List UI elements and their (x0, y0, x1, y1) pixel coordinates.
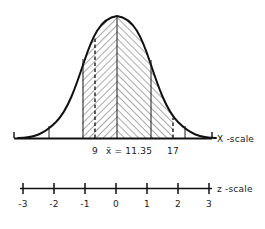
z-tick-label-minus1: -1 (80, 199, 89, 209)
x-tick-label-mean: x̄ = 11.35 (106, 146, 152, 156)
x-tick-label-17: 17 (167, 146, 179, 156)
x-tick-label-9: 9 (92, 146, 98, 156)
normal-distribution-figure: X -scale 9 x̄ = 11.35 17 z -scale -3 -2 … (0, 0, 265, 229)
z-axis-label: z -scale (217, 184, 253, 194)
z-tick-label-plus3: 3 (206, 199, 212, 209)
hatch-left-half (82, 10, 117, 139)
z-tick-label-plus1: 1 (144, 199, 150, 209)
z-tick-label-plus2: 2 (175, 199, 181, 209)
hatch-right-half (117, 10, 173, 139)
z-tick-label-zero: 0 (113, 199, 119, 209)
x-axis-label: X -scale (217, 134, 254, 144)
z-tick-label-minus2: -2 (49, 199, 58, 209)
z-tick-label-minus3: -3 (18, 199, 27, 209)
